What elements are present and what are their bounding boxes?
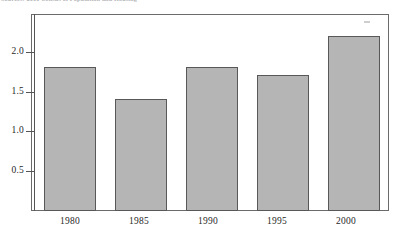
y-tick-1-0: [26, 131, 35, 132]
y-axis-label-2-0: 2.0: [0, 47, 24, 57]
x-axis-label-1985: 1985: [104, 216, 174, 226]
y-axis-label-1-5: 1.5: [0, 87, 24, 97]
x-axis-label-1980: 1980: [35, 216, 105, 226]
y-tick-0-5: [26, 171, 35, 172]
y-axis-label-1-0: 1.0: [0, 126, 24, 136]
bar-1990: [186, 67, 238, 211]
caption-text: Sources: 2000 Census of Population and H…: [1, 0, 137, 2]
bar-2000: [328, 36, 380, 211]
bar-1995: [257, 75, 309, 211]
bar-1985: [115, 99, 167, 211]
y-axis-label-0-5: 0.5: [0, 166, 24, 176]
scan-speck-icon: [364, 21, 370, 23]
y-tick-1-5: [26, 92, 35, 93]
y-tick-2-0: [26, 52, 35, 53]
x-axis-label-2000: 2000: [311, 216, 381, 226]
x-axis-label-1990: 1990: [173, 216, 243, 226]
x-axis-label-1995: 1995: [242, 216, 312, 226]
plot-area: [35, 14, 389, 211]
caption-clip: Sources: 2000 Census of Population and H…: [0, 0, 200, 5]
bar-1980: [44, 67, 96, 211]
